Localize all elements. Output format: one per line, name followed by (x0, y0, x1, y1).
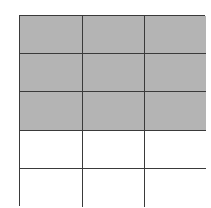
unshaded-grid-cell (20, 131, 83, 169)
unshaded-grid-cell (83, 131, 145, 169)
shaded-grid-cell (83, 54, 145, 92)
fraction-grid (19, 15, 205, 206)
shaded-grid-cell (145, 54, 206, 92)
shaded-grid-cell (83, 92, 145, 131)
shaded-grid-cell (20, 16, 83, 54)
shaded-grid-cell (83, 16, 145, 54)
shaded-grid-cell (145, 92, 206, 131)
unshaded-grid-cell (83, 169, 145, 207)
unshaded-grid-cell (20, 169, 83, 207)
shaded-grid-cell (20, 54, 83, 92)
unshaded-grid-cell (145, 169, 206, 207)
shaded-grid-cell (145, 16, 206, 54)
shaded-grid-cell (20, 92, 83, 131)
unshaded-grid-cell (145, 131, 206, 169)
